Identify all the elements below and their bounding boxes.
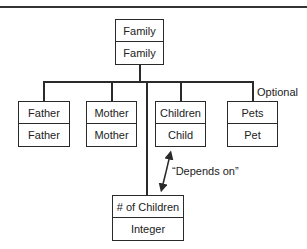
depends-on-arrow-icon (0, 0, 307, 249)
depends-on-label: “Depends on” (172, 165, 239, 177)
